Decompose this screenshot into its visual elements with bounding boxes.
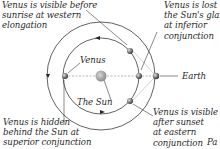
venus-orbit-diagram: Venus is visible before sunrise at weste… — [0, 0, 220, 149]
sight-line-lower — [131, 76, 156, 102]
label-sun: The Sun — [77, 97, 112, 107]
label-inferior-conjunction: Venus is lost in the Sun's glare at infe… — [164, 0, 220, 41]
venus-eastern-icon — [127, 98, 133, 104]
label-superior-conjunction: Venus is hidden behind the Sun at superi… — [3, 117, 91, 148]
pointer-venus — [68, 63, 80, 73]
label-cut-off: Pa — [207, 137, 217, 147]
orbit-arrow-icon — [95, 36, 100, 40]
orbit-arrow-icon — [46, 74, 50, 78]
label-western-elongation: Venus is visible before sunrise at weste… — [2, 0, 97, 31]
venus-inferior-icon — [136, 73, 142, 79]
pointer-inferior — [141, 32, 157, 70]
label-venus: Venus — [80, 55, 105, 65]
sun-icon — [96, 71, 107, 82]
venus-superior-icon — [62, 73, 68, 79]
label-earth: Earth — [182, 71, 206, 81]
earth-icon — [153, 73, 159, 79]
pointer-eastern — [133, 104, 153, 116]
orbit-arrow-icon — [100, 110, 105, 114]
venus-western-icon — [127, 48, 133, 54]
